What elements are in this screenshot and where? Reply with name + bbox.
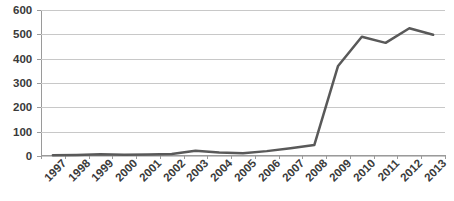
- y-tick-label-100: 100: [13, 126, 32, 138]
- y-tick-label-0: 0: [26, 150, 32, 162]
- y-tick-label-600: 600: [13, 4, 32, 16]
- line-chart: 0100200300400500600 19971998199920002001…: [0, 0, 454, 201]
- y-tick-label-300: 300: [13, 77, 32, 89]
- data-series-layer: [41, 10, 445, 156]
- x-tick-17: [445, 155, 446, 159]
- series-line-1: [53, 28, 433, 155]
- y-tick-label-400: 400: [13, 53, 32, 65]
- y-tick-label-200: 200: [13, 101, 32, 113]
- plot-area: [41, 10, 445, 156]
- y-axis-tick-labels: 0100200300400500600: [0, 0, 36, 201]
- y-tick-label-500: 500: [13, 28, 32, 40]
- x-axis-tick-labels: 1997199819992000200120022003200420052006…: [41, 157, 445, 201]
